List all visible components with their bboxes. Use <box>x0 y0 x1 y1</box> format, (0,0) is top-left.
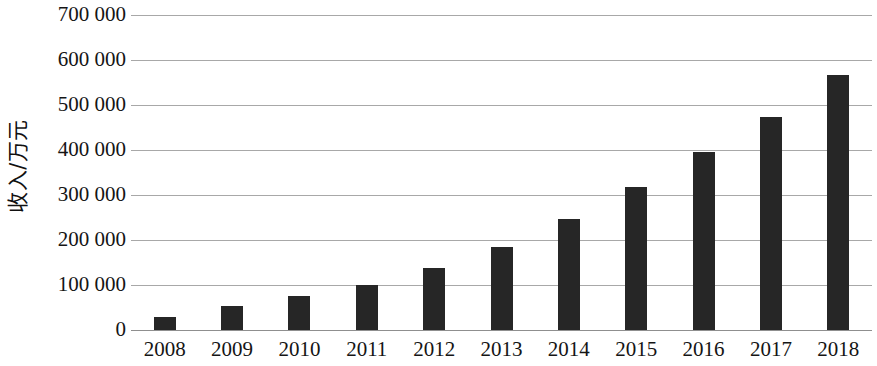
bar <box>356 285 378 330</box>
bar <box>760 117 782 330</box>
x-axis-tick-labels: 2008200920102011201220132014201520162017… <box>131 336 872 366</box>
x-tick-label: 2017 <box>736 336 806 362</box>
x-tick-label: 2018 <box>803 336 873 362</box>
plot-area <box>131 15 872 330</box>
x-tick-label: 2013 <box>467 336 537 362</box>
x-tick-label: 2012 <box>399 336 469 362</box>
y-tick-label: 500 000 <box>30 94 126 115</box>
y-axis-title-text: 收入/万元 <box>1 119 31 213</box>
bar <box>491 247 513 330</box>
y-tick-label: 400 000 <box>30 139 126 160</box>
bar <box>423 268 445 330</box>
axis-baseline <box>131 330 872 331</box>
y-axis-tick-labels: 0100 000200 000300 000400 000500 000600 … <box>30 0 126 340</box>
bar <box>288 296 310 330</box>
bar <box>154 317 176 330</box>
x-tick-label: 2015 <box>601 336 671 362</box>
bar <box>693 152 715 330</box>
bars-layer <box>131 15 872 330</box>
bar <box>827 75 849 330</box>
y-tick-label: 0 <box>30 319 126 340</box>
x-tick-label: 2014 <box>534 336 604 362</box>
y-tick-label: 600 000 <box>30 49 126 70</box>
y-axis-title: 收入/万元 <box>0 0 32 332</box>
x-tick-label: 2009 <box>197 336 267 362</box>
bar <box>221 306 243 330</box>
bar <box>625 187 647 330</box>
x-tick-label: 2010 <box>264 336 334 362</box>
bar <box>558 219 580 330</box>
x-tick-label: 2008 <box>130 336 200 362</box>
y-tick-label: 700 000 <box>30 4 126 25</box>
y-tick-label: 300 000 <box>30 184 126 205</box>
bar-chart: 收入/万元 0100 000200 000300 000400 000500 0… <box>0 0 877 366</box>
x-tick-label: 2016 <box>669 336 739 362</box>
y-tick-label: 100 000 <box>30 274 126 295</box>
x-tick-label: 2011 <box>332 336 402 362</box>
y-tick-label: 200 000 <box>30 229 126 250</box>
